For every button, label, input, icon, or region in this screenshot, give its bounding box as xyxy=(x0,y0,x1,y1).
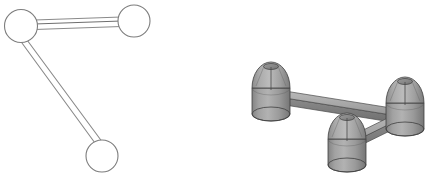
wireframe-joint-b xyxy=(118,5,150,37)
shaded-joint-c xyxy=(328,113,366,172)
mechanism-figure xyxy=(0,0,430,178)
wireframe-joint-a xyxy=(5,10,38,43)
wireframe-link-ac xyxy=(15,32,105,149)
shaded-joint-b xyxy=(386,77,424,136)
shaded-panel xyxy=(252,62,424,172)
wireframe-panel xyxy=(5,5,151,172)
wireframe-joint-c xyxy=(86,140,118,172)
shaded-joint-a xyxy=(252,62,290,121)
figure-canvas: Linkage Mechanism — Wireframe and Shaded… xyxy=(0,0,430,178)
